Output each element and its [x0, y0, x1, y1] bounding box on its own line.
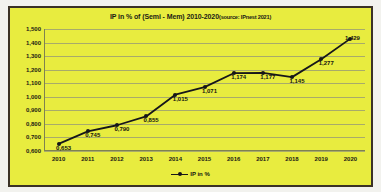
gridline	[44, 151, 365, 152]
data-point-label: 0,653	[56, 145, 71, 151]
y-axis-tick-label: 1,500	[26, 26, 41, 32]
x-axis-tick-label: 2014	[169, 156, 182, 162]
y-axis-tick-label: 1,300	[26, 53, 41, 59]
legend-label: IP in %	[190, 171, 210, 177]
chart-frame: IP in % of (Semi - Mem) 2010-2020(source…	[8, 6, 373, 187]
chart-legend: IP in %	[10, 171, 371, 177]
x-axis-tick-label: 2016	[227, 156, 240, 162]
data-point-label: 1,145	[290, 78, 305, 84]
chart-title: IP in % of (Semi - Mem) 2010-2020(source…	[10, 13, 371, 20]
chart-screenshot: IP in % of (Semi - Mem) 2010-2020(source…	[0, 0, 381, 192]
y-axis-tick-label: 0,700	[26, 134, 41, 140]
x-axis-tick-label: 2015	[198, 156, 211, 162]
legend-marker-icon	[171, 171, 188, 177]
x-axis-tick-label: 2010	[52, 156, 65, 162]
data-point-label: 1,277	[319, 60, 334, 66]
y-axis-tick-label: 0,900	[26, 107, 41, 113]
x-axis-tick-label: 2013	[139, 156, 152, 162]
y-axis-tick-label: 1,200	[26, 67, 41, 73]
y-axis-tick-label: 1,000	[26, 94, 41, 100]
y-axis-tick-label: 1,100	[26, 80, 41, 86]
y-axis-tick-label: 0,800	[26, 121, 41, 127]
x-axis-tick-label: 2012	[110, 156, 123, 162]
x-axis-tick-label: 2017	[256, 156, 269, 162]
x-axis-tick-label: 2011	[81, 156, 94, 162]
data-point-label: 1,429	[345, 35, 360, 41]
data-point-label: 0,745	[85, 132, 100, 138]
data-point-label: 1,015	[173, 96, 188, 102]
y-axis-tick-label: 0,600	[26, 148, 41, 154]
x-axis-tick-label: 2020	[344, 156, 357, 162]
data-point-label: 1,071	[202, 88, 217, 94]
chart-title-main: IP in % of (Semi - Mem) 2010-2020	[110, 13, 219, 20]
data-point-label: 0,790	[114, 126, 129, 132]
data-point-label: 0,855	[144, 117, 159, 123]
x-axis-tick-label: 2019	[315, 156, 328, 162]
data-point-label: 1,174	[231, 74, 246, 80]
plot-area: 1,5001,4001,3001,2001,1001,0000,9000,800…	[44, 29, 365, 151]
y-axis-tick-label: 1,400	[26, 40, 41, 46]
data-point-label: 1,177	[260, 74, 275, 80]
x-axis-tick-label: 2018	[285, 156, 298, 162]
chart-title-source: (source: IPnest 2021)	[219, 14, 271, 20]
